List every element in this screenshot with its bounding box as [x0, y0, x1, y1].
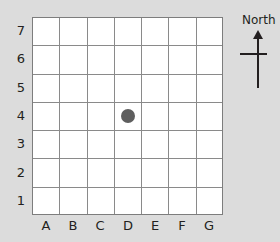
grid-line-horizontal	[33, 102, 222, 103]
grid-line-horizontal	[33, 45, 222, 46]
grid-line-horizontal	[33, 158, 222, 159]
grid-line-horizontal	[33, 187, 222, 188]
column-label-a: A	[36, 219, 56, 233]
grid-line-vertical	[141, 18, 142, 214]
grid-line-vertical	[59, 18, 60, 214]
row-label-6: 6	[14, 52, 28, 66]
row-label-2: 2	[14, 166, 28, 180]
column-label-b: B	[63, 219, 83, 233]
compass-shaft	[257, 36, 259, 88]
column-label-d: D	[118, 219, 138, 233]
row-label-4: 4	[14, 109, 28, 123]
grid-line-vertical	[87, 18, 88, 214]
row-label-1: 1	[14, 194, 28, 208]
row-label-7: 7	[14, 24, 28, 38]
column-label-e: E	[145, 219, 165, 233]
column-label-c: C	[90, 219, 110, 233]
grid-line-vertical	[168, 18, 169, 214]
row-label-5: 5	[14, 81, 28, 95]
grid-line-vertical	[114, 18, 115, 214]
north-label: North	[242, 13, 276, 27]
row-label-3: 3	[14, 137, 28, 151]
column-label-f: F	[172, 219, 192, 233]
grid-line-vertical	[196, 18, 197, 214]
location-marker-dot	[121, 109, 135, 123]
column-label-g: G	[199, 219, 219, 233]
grid-line-horizontal	[33, 74, 222, 75]
grid-line-horizontal	[33, 130, 222, 131]
compass-crossbar	[240, 53, 267, 55]
